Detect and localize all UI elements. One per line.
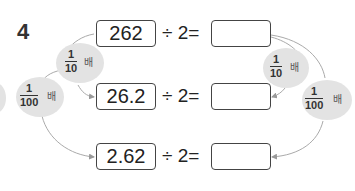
answer-box-2[interactable]: [211, 83, 271, 110]
equation-operator-3: ÷ 2=: [162, 145, 199, 167]
fraction-right-hundredth: 1100: [305, 86, 323, 111]
answer-box-3[interactable]: [211, 143, 271, 170]
equation-operator-1: ÷ 2=: [162, 22, 199, 44]
unit-label: 배: [47, 88, 56, 103]
equation-operator-2: ÷ 2=: [162, 85, 199, 107]
dividend-box-3: 2.62: [96, 143, 156, 170]
fraction-left-hundredth: 1100: [20, 83, 38, 108]
problem-number: 4: [17, 19, 29, 45]
unit-label: 배: [290, 59, 299, 74]
fraction-left-tenth: 110: [65, 49, 77, 74]
answer-box-1[interactable]: [211, 20, 271, 47]
dividend-box-1: 262: [96, 20, 156, 47]
bubble-left-tenth: [56, 43, 104, 83]
dividend-box-2: 26.2: [96, 83, 156, 110]
unit-label: 배: [84, 54, 93, 69]
fraction-right-tenth: 110: [270, 54, 282, 79]
unit-label: 배: [333, 91, 342, 106]
